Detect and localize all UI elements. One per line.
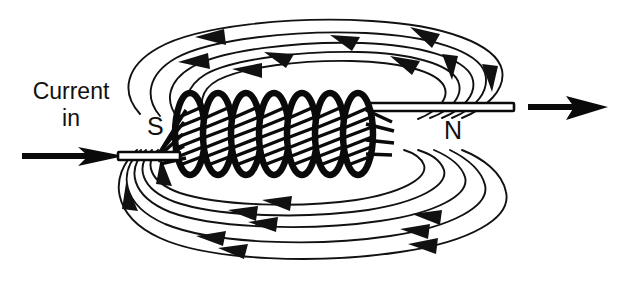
input-wire: [118, 152, 180, 160]
solenoid-coil: [157, 93, 394, 175]
solenoid-field-diagram: S N Current in: [0, 0, 623, 284]
output-lead-group: [368, 96, 608, 120]
current-label-line2: in: [10, 105, 132, 132]
current-label-line1: Current: [33, 78, 110, 104]
field-arrow-left-icon: [218, 244, 248, 259]
current-in-label: Current in: [10, 78, 132, 132]
field-arrow-left-icon: [400, 224, 430, 239]
field-arrow-left-icon: [412, 210, 442, 225]
field-diagram-canvas: S N: [0, 0, 623, 284]
south-pole-label: S: [147, 112, 164, 140]
input-arrow-shaft: [22, 153, 94, 159]
field-arrow-left-icon: [262, 196, 292, 211]
output-wire: [368, 103, 514, 111]
input-lead-group: [22, 147, 180, 166]
field-arrow-up-icon: [122, 183, 138, 211]
field-arrow-left-icon: [232, 63, 262, 78]
coil-turn: [343, 93, 373, 175]
north-pole-label: N: [444, 116, 462, 144]
field-arrow-left-icon: [408, 238, 438, 254]
